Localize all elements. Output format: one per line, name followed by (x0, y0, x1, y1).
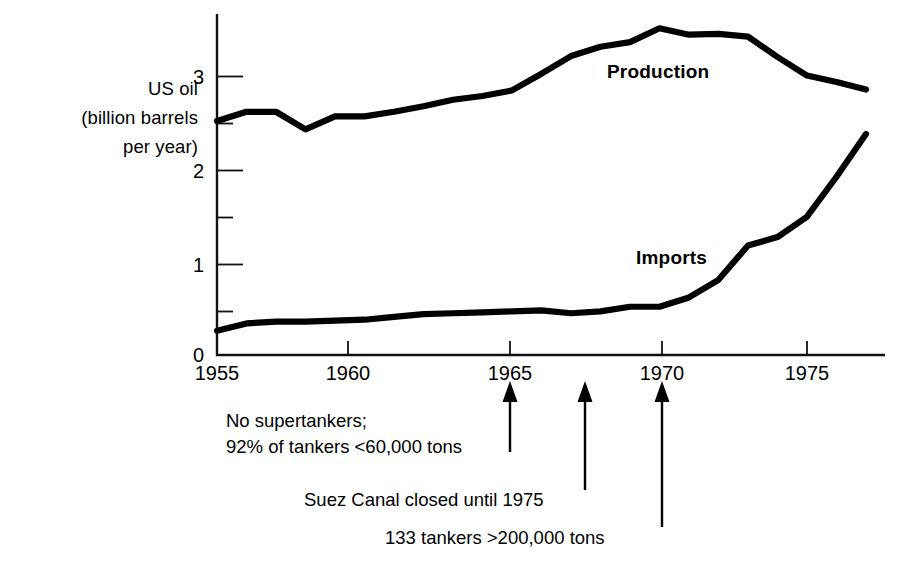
plot-area (0, 0, 897, 561)
annotation-no-supertankers-line-2: 92% of tankers <60,000 tons (226, 436, 462, 457)
annotation-no-supertankers: No supertankers;92% of tankers <60,000 t… (226, 408, 462, 460)
annotation-arrow-133-tankers (655, 381, 670, 527)
annotation-arrow-no-supertankers (503, 381, 518, 452)
series-label-imports: Imports (636, 248, 707, 267)
annotation-133-tankers: 133 tankers >200,000 tons (385, 525, 605, 551)
oil-production-imports-chart: US oil(billion barrelsper year) 3 2 1 0 … (0, 0, 897, 561)
annotation-no-supertankers-line-1: No supertankers; (226, 410, 367, 431)
series-label-production: Production (607, 62, 709, 81)
imports-line (217, 134, 866, 331)
annotation-suez-canal: Suez Canal closed until 1975 (304, 487, 544, 513)
production-line (217, 28, 866, 129)
annotation-arrow-suez-canal (578, 381, 593, 490)
x-axis-ticks (217, 341, 807, 355)
